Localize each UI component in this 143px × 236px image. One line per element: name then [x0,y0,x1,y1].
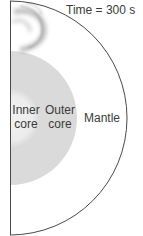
outer-core-label-line2: core [43,117,77,131]
mantle-label: Mantle [84,111,120,125]
inner-core-label-line2: core [11,117,41,131]
inner-core-label-line1: Inner [11,103,41,117]
outer-core-label: Outer core [43,103,77,131]
time-label: Time = 300 s [66,3,135,17]
inner-core-label: Inner core [11,103,41,131]
outer-core-label-line1: Outer [43,103,77,117]
